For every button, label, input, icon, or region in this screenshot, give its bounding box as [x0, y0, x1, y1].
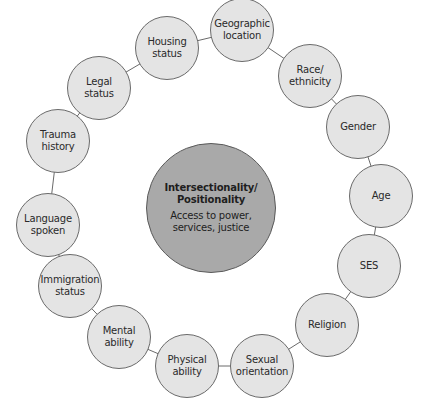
node-label: Immigration status [41, 274, 100, 298]
node-housing-status: Housing status [135, 16, 199, 80]
node-label: Trauma history [40, 129, 76, 153]
node-label: Housing status [147, 36, 186, 60]
node-label: Legal status [84, 76, 114, 100]
node-ses: SES [337, 234, 401, 298]
node-label: Physical ability [167, 354, 206, 378]
node-mental-ability: Mental ability [87, 305, 151, 369]
node-label: Mental ability [103, 325, 136, 349]
node-gender: Gender [326, 95, 390, 159]
node-physical-ability: Physical ability [155, 334, 219, 398]
node-label: Language spoken [24, 213, 72, 237]
node-sexual-orientation: Sexual orientation [230, 334, 294, 398]
node-religion: Religion [295, 293, 359, 357]
node-trauma-history: Trauma history [26, 109, 90, 173]
node-age: Age [349, 164, 413, 228]
node-immigration-status: Immigration status [38, 254, 102, 318]
node-label: SES [360, 260, 378, 272]
node-geographic-location: Geographic location [210, 0, 274, 62]
node-label: Geographic location [214, 18, 270, 42]
node-language-spoken: Language spoken [16, 193, 80, 257]
center-title: Intersectionality/ Positionality [164, 182, 257, 206]
node-race-ethnicity: Race/ ethnicity [278, 44, 342, 108]
center-node-intersectionality: Intersectionality/ Positionality Access … [146, 143, 276, 273]
node-legal-status: Legal status [67, 56, 131, 120]
node-label: Gender [340, 121, 376, 133]
node-label: Sexual orientation [236, 354, 289, 378]
center-subtitle: Access to power, services, justice [170, 210, 252, 234]
node-label: Religion [308, 319, 346, 331]
node-label: Age [372, 190, 391, 202]
node-label: Race/ ethnicity [289, 64, 331, 88]
